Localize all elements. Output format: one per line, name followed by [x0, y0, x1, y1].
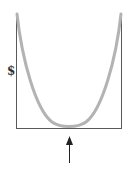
arrow-up-icon [66, 136, 73, 163]
cost-curve-diagram: $ [0, 0, 128, 173]
u-curve [17, 14, 121, 127]
plot-area [0, 0, 128, 173]
